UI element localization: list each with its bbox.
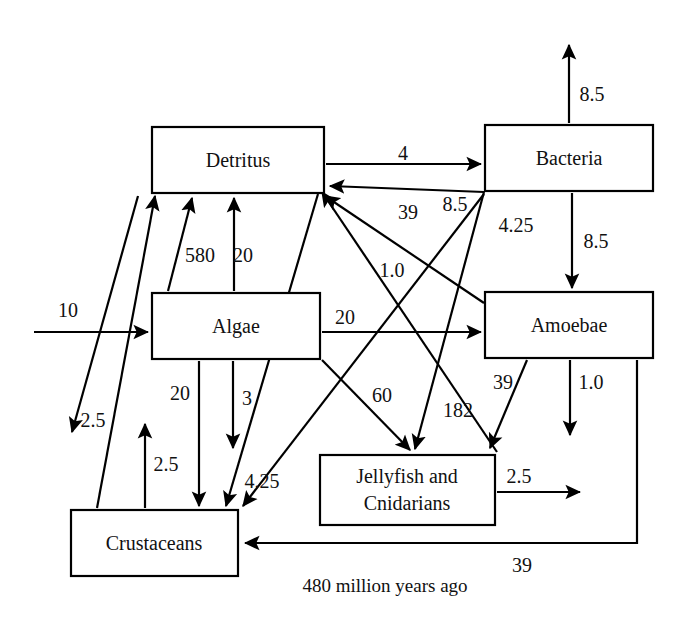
flow-label-amoebae-to-crustaceans: 39: [512, 554, 532, 576]
flow-label-bacteria-to-crustaceans: 4.25: [499, 214, 534, 236]
flow-label-algae-to-crustaceans-3: 3: [242, 387, 252, 409]
flow-label-bacteria-to-amoebae: 8.5: [584, 230, 609, 252]
flow-label-algae-to-jellyfish: 60: [372, 384, 392, 406]
flow-label-algae-to-detritus-580: 580: [185, 244, 215, 266]
node-label-detritus: Detritus: [206, 149, 271, 171]
node-label-bacteria: Bacteria: [536, 147, 603, 169]
node-label-jellyfish-line1: Jellyfish and: [356, 465, 458, 488]
diagram-caption: 480 million years ago: [302, 575, 467, 596]
diagram-svg: Detritus Bacteria Algae Amoebae Jellyfis…: [0, 0, 688, 622]
flow-label-amoebae-to-detritus: 1.0: [380, 259, 405, 281]
node-label-jellyfish-line2: Cnidarians: [364, 492, 451, 514]
flow-line-algae-to-jellyfish: [322, 360, 410, 450]
node-label-algae: Algae: [212, 315, 260, 338]
node-label-amoebae: Amoebae: [531, 314, 608, 336]
flow-label-algae-to-crustaceans-20: 20: [170, 382, 190, 404]
flow-label-jellyfish-to-output: 2.5: [507, 465, 532, 487]
node-label-crustaceans: Crustaceans: [106, 532, 203, 554]
flow-label-amoebae-to-jellyfish: 39: [493, 371, 513, 393]
flow-label-bacteria-to-output: 8.5: [580, 83, 605, 105]
flow-line-crustaceans-to-detritus: [72, 196, 138, 432]
flow-label-input-to-algae: 10: [58, 299, 78, 321]
flow-label-bacteria-to-detritus: 39: [398, 201, 418, 223]
flow-label-algae-to-detritus-20: 20: [233, 244, 253, 266]
flow-label-crustaceans-to-detritus-425: 4.25: [245, 470, 280, 492]
flow-label-jellyfish-to-detritus: 182: [443, 399, 473, 421]
flow-label-amoebae-to-output: 1.0: [579, 371, 604, 393]
flow-label-bacteria-to-jellyfish: 8.5: [443, 193, 468, 215]
flow-label-crustaceans-to-detritus2: 2.5: [154, 453, 179, 475]
food-web-diagram: Detritus Bacteria Algae Amoebae Jellyfis…: [0, 0, 688, 622]
flow-label-algae-to-amoebae: 20: [335, 306, 355, 328]
flow-label-detritus-to-bacteria: 4: [398, 142, 408, 164]
flow-label-crustaceans-to-detritus: 2.5: [81, 409, 106, 431]
flow-line-bacteria-to-detritus: [330, 186, 484, 192]
